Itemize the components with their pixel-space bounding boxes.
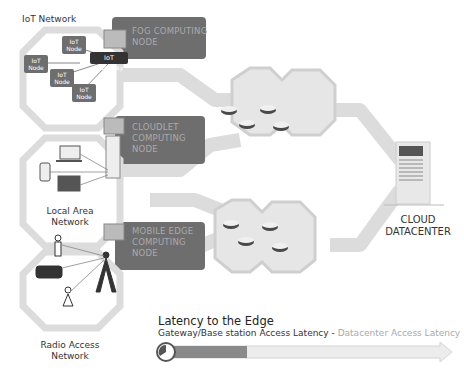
iot-network-label: IoT Network — [22, 14, 76, 25]
mec-node-label: MOBILE EDGECOMPUTINGNODE — [132, 226, 193, 259]
fog-node-label: FOG COMPUTINGNODE — [132, 26, 207, 48]
fog-server-icon — [104, 30, 126, 48]
lan-router-icon — [106, 136, 120, 178]
cloud-datacenter-label: CLOUDDATACENTER — [378, 214, 458, 238]
ran-label: Radio AccessNetwork — [35, 340, 105, 362]
latency-subtitle: Gateway/Base station Access Latency - Da… — [158, 328, 460, 338]
iot-node-label: IoT Node — [25, 57, 47, 71]
iot-node-label: IoT Node — [73, 86, 95, 100]
cloudlet-server-icon — [104, 118, 124, 134]
iot-node-label: IoT Node — [51, 71, 73, 85]
edge-cloud-bottom — [215, 200, 315, 272]
latency-bar — [157, 342, 452, 362]
lan-label: Local AreaNetwork — [35, 206, 105, 228]
latency-title: Latency to the Edge — [158, 314, 274, 328]
iot-node-label: IoT Node — [63, 38, 85, 52]
edge-cloud-top — [221, 68, 335, 135]
mec-server-icon — [104, 224, 124, 240]
iot-gateway-label: IoT Gateway — [90, 53, 128, 73]
cloudlet-node-label: CLOUDLETCOMPUTINGNODE — [132, 122, 186, 155]
